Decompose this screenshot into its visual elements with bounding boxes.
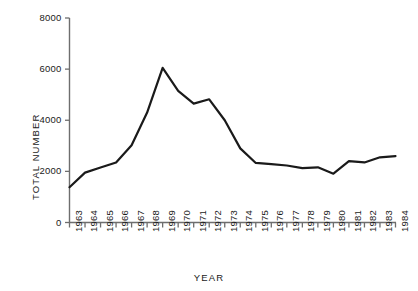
x-tick-label: 1964 xyxy=(89,210,99,232)
y-tick-label: 8000 xyxy=(18,13,62,23)
x-tick-label: 1969 xyxy=(167,210,177,232)
y-tick-label: 4000 xyxy=(18,115,62,125)
x-tick-label: 1976 xyxy=(275,210,285,232)
x-tick-label: 1963 xyxy=(74,210,84,232)
x-tick-label: 1977 xyxy=(291,210,301,232)
x-tick-label: 1979 xyxy=(322,210,332,232)
axis-spine xyxy=(70,18,397,223)
plot-area: 02000400060008000 1963196419651966196719… xyxy=(0,0,418,291)
x-tick-label: 1978 xyxy=(306,210,316,232)
y-tick-label: 2000 xyxy=(18,166,62,176)
x-tick-label: 1974 xyxy=(244,210,254,232)
y-tick-label: 0 xyxy=(18,218,62,228)
x-tick-label: 1984 xyxy=(400,210,410,232)
data-line-series-total xyxy=(70,68,396,187)
x-tick-label: 1982 xyxy=(368,210,378,232)
chart-canvas xyxy=(0,0,418,291)
x-tick-label: 1966 xyxy=(120,210,130,232)
x-tick-label: 1983 xyxy=(384,210,394,232)
x-tick-label: 1970 xyxy=(182,210,192,232)
x-tick-label: 1967 xyxy=(136,210,146,232)
x-tick-label: 1975 xyxy=(260,210,270,232)
chart-figure: TOTAL NUMBER YEAR 02000400060008000 1963… xyxy=(0,0,418,291)
x-tick-label: 1971 xyxy=(198,210,208,232)
y-tick-label: 6000 xyxy=(18,64,62,74)
x-tick-label: 1968 xyxy=(151,210,161,232)
x-tick-label: 1980 xyxy=(337,210,347,232)
x-tick-label: 1972 xyxy=(213,210,223,232)
x-tick-label: 1973 xyxy=(229,210,239,232)
x-tick-label: 1965 xyxy=(105,210,115,232)
x-tick-label: 1981 xyxy=(353,210,363,232)
